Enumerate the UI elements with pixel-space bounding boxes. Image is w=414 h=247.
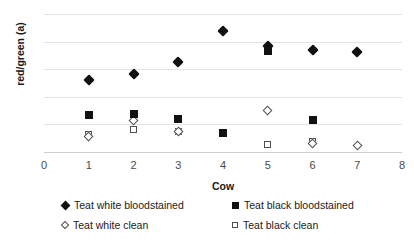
data-point xyxy=(263,106,273,116)
data-point xyxy=(85,111,93,119)
data-point xyxy=(352,46,363,57)
data-point xyxy=(264,141,271,148)
square-open-icon xyxy=(232,222,238,228)
x-tick-6: 6 xyxy=(301,160,325,171)
data-point xyxy=(84,132,94,142)
data-point xyxy=(173,56,184,67)
x-tick-5: 5 xyxy=(256,160,280,171)
x-tick-7: 7 xyxy=(345,160,369,171)
data-point xyxy=(130,126,137,133)
data-point xyxy=(174,115,182,123)
data-point xyxy=(309,138,316,145)
chart-legend: Teat white bloodstainedTeat black bloods… xyxy=(62,200,392,230)
y-axis-title: red/green (a) xyxy=(14,0,26,114)
gridline-y-12 xyxy=(44,69,402,70)
diamond-filled-icon xyxy=(61,200,71,210)
legend-label: Teat white bloodstained xyxy=(74,200,184,211)
legend-item-1: Teat black bloodstained xyxy=(232,200,402,211)
data-point xyxy=(175,128,182,135)
data-point xyxy=(173,127,183,137)
gridline-y-16 xyxy=(44,42,402,43)
gridline-y-4 xyxy=(44,124,402,125)
x-tick-1: 1 xyxy=(77,160,101,171)
gridline-y-8 xyxy=(44,97,402,98)
data-point xyxy=(217,26,228,37)
data-point xyxy=(219,129,227,137)
data-point xyxy=(85,131,92,138)
square-filled-icon xyxy=(232,202,239,209)
data-point xyxy=(309,116,317,124)
legend-item-2: Teat white clean xyxy=(62,220,232,231)
legend-item-3: Teat black clean xyxy=(232,220,402,231)
legend-label: Teat black bloodstained xyxy=(244,200,354,211)
plot-area xyxy=(44,14,402,152)
x-tick-3: 3 xyxy=(166,160,190,171)
data-point xyxy=(83,74,94,85)
x-tick-8: 8 xyxy=(390,160,414,171)
x-tick-2: 2 xyxy=(122,160,146,171)
scatter-chart: red/green (a) 048121620 012345678 Cow Te… xyxy=(0,0,414,247)
data-point xyxy=(308,139,318,149)
x-tick-0: 0 xyxy=(32,160,56,171)
data-point xyxy=(307,44,318,55)
diamond-open-icon xyxy=(61,221,69,229)
legend-item-0: Teat white bloodstained xyxy=(62,200,232,211)
legend-label: Teat white clean xyxy=(73,220,148,231)
data-point xyxy=(352,141,362,151)
x-axis-title: Cow xyxy=(44,180,402,192)
legend-label: Teat black clean xyxy=(243,220,318,231)
x-tick-4: 4 xyxy=(211,160,235,171)
gridline-y-20 xyxy=(44,14,402,15)
data-point xyxy=(130,110,138,118)
data-point xyxy=(264,47,272,55)
data-point xyxy=(220,129,227,136)
gridline-y-0 xyxy=(44,152,402,153)
